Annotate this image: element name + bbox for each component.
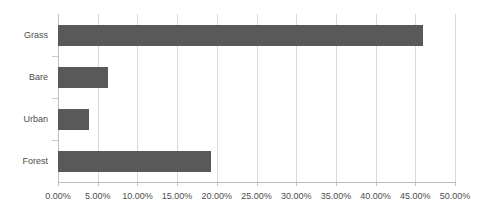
y-axis-label-forest: Forest <box>22 156 48 166</box>
y-axis-label-bare: Bare <box>29 72 48 82</box>
bar-bare <box>58 67 108 88</box>
x-axis-tick <box>376 182 377 186</box>
x-axis-tick-label: 10.00% <box>122 191 153 202</box>
y-axis-tick <box>52 98 58 99</box>
bar-urban <box>58 109 89 130</box>
x-axis-tick-label: 50.00% <box>440 191 471 202</box>
x-axis-tick <box>415 182 416 186</box>
y-axis-tick <box>52 140 58 141</box>
y-axis-category-labels: GrassBareUrbanForest <box>0 14 52 182</box>
x-axis-tick-label: 30.00% <box>281 191 312 202</box>
y-axis-label-urban: Urban <box>23 114 48 124</box>
gridline-50.00% <box>455 14 456 182</box>
bar-row <box>58 14 455 56</box>
x-axis-tick-label: 35.00% <box>321 191 352 202</box>
x-axis-tick <box>58 182 59 186</box>
bar-row <box>58 140 455 182</box>
x-axis-tick-label: 25.00% <box>241 191 272 202</box>
x-axis-tick-label: 15.00% <box>162 191 193 202</box>
bar-chart: GrassBareUrbanForest 0.00%5.00%10.00%15.… <box>0 0 490 220</box>
x-axis-tick <box>257 182 258 186</box>
x-axis-tick <box>177 182 178 186</box>
x-axis-tick <box>98 182 99 186</box>
x-axis-tick <box>296 182 297 186</box>
bar-row <box>58 98 455 140</box>
x-axis-tick <box>137 182 138 186</box>
y-axis-label-grass: Grass <box>24 30 48 40</box>
plot-area <box>58 14 455 182</box>
x-axis-tick <box>455 182 456 186</box>
bar-forest <box>58 151 211 172</box>
bar-row <box>58 56 455 98</box>
bar-grass <box>58 25 423 46</box>
x-axis-tick-label: 0.00% <box>45 191 71 202</box>
x-axis-tick-label: 45.00% <box>400 191 431 202</box>
y-axis-tick <box>52 56 58 57</box>
x-axis-tick-label: 20.00% <box>202 191 233 202</box>
x-axis-tick-label: 40.00% <box>360 191 391 202</box>
x-axis-tick <box>217 182 218 186</box>
x-axis-tick <box>336 182 337 186</box>
x-axis-tick-label: 5.00% <box>85 191 111 202</box>
